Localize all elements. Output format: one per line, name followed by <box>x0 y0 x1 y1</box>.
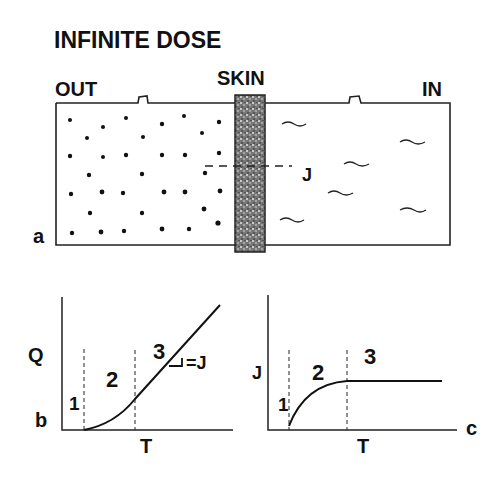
axis-label-q: Q <box>28 345 44 365</box>
axis-label-t-b: T <box>140 436 152 456</box>
skin-membrane <box>235 95 265 252</box>
phase-2-label-c: 2 <box>312 362 324 384</box>
panel-b-label: b <box>35 410 47 430</box>
j-curve <box>289 381 442 426</box>
graph-c <box>268 295 457 430</box>
solute-particles <box>68 114 223 235</box>
axis-label-j: J <box>252 364 262 382</box>
axis-label-t-c: T <box>357 436 369 456</box>
slope-equals-j: =J <box>186 354 207 372</box>
graph-b <box>62 297 233 430</box>
phase-3-label: 3 <box>153 341 165 363</box>
phase-3-label-c: 3 <box>364 346 376 368</box>
phase-1-label-c: 1 <box>278 395 289 414</box>
phase-1-label: 1 <box>69 394 80 413</box>
phase-2-label: 2 <box>106 369 118 391</box>
receptor-fluid-marks <box>280 122 426 222</box>
panel-c-label: c <box>466 418 477 438</box>
